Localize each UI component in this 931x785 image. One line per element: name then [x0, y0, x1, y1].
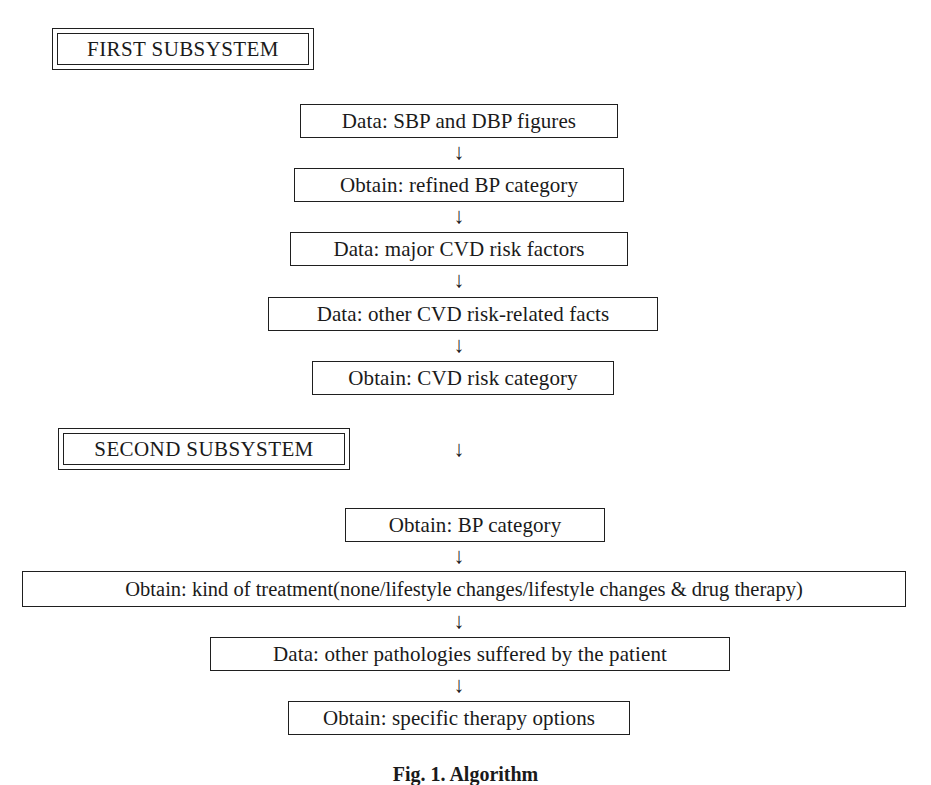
subsystem-banner-first: FIRST SUBSYSTEM [52, 28, 314, 70]
node-obtain-kind-of-treatment: Obtain: kind of treatment(none/lifestyle… [22, 571, 906, 607]
node-data-sbp-dbp-figures: Data: SBP and DBP figures [300, 104, 618, 138]
node-obtain-bp-category-label: Obtain: BP category [379, 515, 572, 536]
arrow-down-4: ↓ [447, 334, 471, 356]
subsystem-first-label: FIRST SUBSYSTEM [78, 39, 288, 60]
subsystem-banner-first-inner: FIRST SUBSYSTEM [57, 33, 309, 65]
node-obtain-cvd-risk-category-label: Obtain: CVD risk category [338, 368, 587, 389]
arrow-down-1: ↓ [447, 141, 471, 163]
node-obtain-cvd-risk-category: Obtain: CVD risk category [312, 361, 614, 395]
subsystem-banner-second: SECOND SUBSYSTEM [58, 428, 350, 470]
node-obtain-kind-of-treatment-label: Obtain: kind of treatment(none/lifestyle… [115, 579, 812, 600]
node-obtain-bp-category: Obtain: BP category [345, 508, 605, 542]
node-data-other-cvd-risk-related-facts: Data: other CVD risk-related facts [268, 297, 658, 331]
arrow-down-5: ↓ [447, 438, 471, 460]
node-data-other-pathologies-label: Data: other pathologies suffered by the … [263, 644, 677, 665]
node-data-sbp-dbp-figures-label: Data: SBP and DBP figures [332, 111, 586, 132]
node-data-major-cvd-risk-factors: Data: major CVD risk factors [290, 232, 628, 266]
figure-caption: Fig. 1. Algorithm [0, 764, 931, 784]
node-data-other-pathologies: Data: other pathologies suffered by the … [210, 637, 730, 671]
node-obtain-refined-bp-category: Obtain: refined BP category [294, 168, 624, 202]
node-data-major-cvd-risk-factors-label: Data: major CVD risk factors [323, 239, 594, 260]
subsystem-banner-second-inner: SECOND SUBSYSTEM [63, 433, 345, 465]
subsystem-second-label: SECOND SUBSYSTEM [85, 439, 322, 460]
arrow-down-2: ↓ [447, 205, 471, 227]
arrow-down-8: ↓ [447, 674, 471, 696]
arrow-down-6: ↓ [447, 545, 471, 567]
arrow-down-7: ↓ [447, 610, 471, 632]
node-obtain-specific-therapy-options: Obtain: specific therapy options [288, 701, 630, 735]
arrow-down-3: ↓ [447, 269, 471, 291]
node-data-other-cvd-risk-related-facts-label: Data: other CVD risk-related facts [307, 304, 620, 325]
node-obtain-refined-bp-category-label: Obtain: refined BP category [330, 175, 588, 196]
node-obtain-specific-therapy-options-label: Obtain: specific therapy options [313, 708, 605, 729]
